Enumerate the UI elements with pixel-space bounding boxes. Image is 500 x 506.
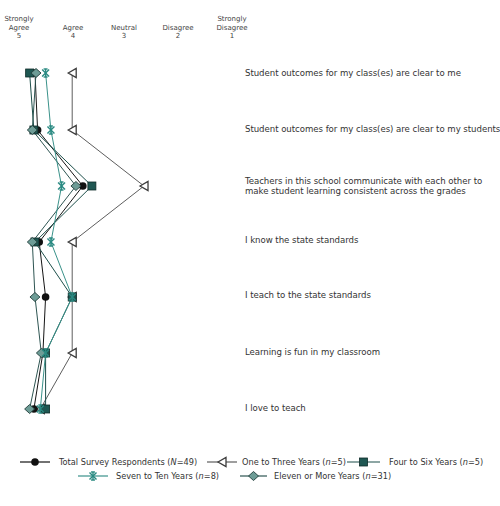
diamond-marker-icon [30, 293, 40, 302]
legend-square-marker-icon [360, 458, 368, 466]
legend-label: One to Three Years ( [242, 457, 326, 467]
legend-item-four-to-six: Four to Six Years (n=5) [389, 457, 483, 467]
series-line-triangle [40, 73, 144, 409]
triangle-marker-icon [140, 181, 148, 190]
legend-label: =49) [177, 457, 197, 467]
star-marker-icon [42, 69, 49, 77]
scale-label-line: Disagree [202, 24, 262, 33]
statement-text: I teach to the state standards [245, 291, 371, 301]
legend-label: =31) [371, 471, 391, 481]
star-marker-icon [58, 182, 65, 190]
circle-marker-icon [42, 293, 50, 301]
scale-label-line [94, 15, 154, 24]
legend-triangle-marker-icon [218, 457, 226, 466]
scale-value: 2 [148, 32, 208, 41]
legend-label: Four to Six Years ( [389, 457, 463, 467]
legend-label: Seven to Ten Years ( [116, 471, 199, 481]
legend-label: =5) [331, 457, 346, 467]
statement-teach-standards: I teach to the state standards [245, 291, 371, 301]
diamond-marker-icon [71, 182, 81, 191]
legend-item-eleven-plus: Eleven or More Years (n=31) [274, 471, 391, 481]
legend-item-one-to-three: One to Three Years (n=5) [242, 457, 346, 467]
legend-diamond-marker-icon [249, 472, 259, 481]
statement-know-standards: I know the state standards [245, 236, 358, 246]
scale-label-line: Strongly [0, 15, 49, 24]
scale-value: 1 [202, 32, 262, 41]
statement-outcomes-clear-to-me: Student outcomes for my class(es) are cl… [245, 69, 461, 79]
scale-label-line [148, 15, 208, 24]
legend-label: =8) [204, 471, 219, 481]
scale-label-neutral: Neutral 3 [94, 15, 154, 41]
statement-text: Learning is fun in my classroom [245, 348, 380, 358]
legend-label: Total Survey Respondents ( [59, 457, 171, 467]
star-marker-icon [47, 126, 54, 134]
scale-label-strongly-agree: Strongly Agree 5 [0, 15, 49, 41]
legend-label: Eleven or More Years ( [274, 471, 365, 481]
statement-outcomes-clear-to-students: Student outcomes for my class(es) are cl… [245, 125, 500, 135]
statement-text: I love to teach [245, 404, 306, 414]
scale-label-line: Strongly [202, 15, 262, 24]
legend-item-seven-to-ten: Seven to Ten Years (n=8) [116, 471, 219, 481]
scale-label-line: Agree [0, 24, 49, 33]
statement-teachers-communicate: Teachers in this school communicate with… [245, 177, 482, 196]
statement-text: Student outcomes for my class(es) are cl… [245, 69, 461, 79]
scale-value: 3 [94, 32, 154, 41]
statement-text: Student outcomes for my class(es) are cl… [245, 125, 500, 135]
scale-label-strongly-disagree: Strongly Disagree 1 [202, 15, 262, 41]
legend-label: =5) [468, 457, 483, 467]
series-line-star [40, 73, 72, 409]
scale-label-line: Disagree [148, 24, 208, 33]
legend-item-total: Total Survey Respondents (N=49) [59, 457, 197, 467]
scale-value: 5 [0, 32, 49, 41]
legend-circle-marker-icon [31, 458, 39, 466]
statement-love-to-teach: I love to teach [245, 404, 306, 414]
star-marker-icon [47, 238, 54, 246]
square-marker-icon [88, 182, 96, 190]
scale-label-line: Neutral [94, 24, 154, 33]
statement-learning-fun: Learning is fun in my classroom [245, 348, 380, 358]
statement-text: I know the state standards [245, 236, 358, 246]
statement-text: make student learning consistent across … [245, 187, 482, 197]
scale-label-disagree: Disagree 2 [148, 15, 208, 41]
